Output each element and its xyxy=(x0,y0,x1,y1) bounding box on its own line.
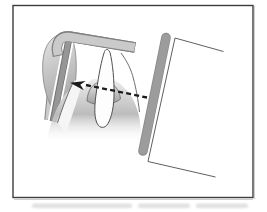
caption-smudge-segment xyxy=(196,204,248,209)
caption-smudge-segment xyxy=(138,204,190,209)
figure-canvas xyxy=(0,0,267,212)
figure-page xyxy=(0,0,267,212)
caption-smudge-segment xyxy=(32,204,132,209)
caption-smudge xyxy=(32,204,248,209)
